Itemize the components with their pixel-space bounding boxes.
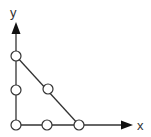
y-axis-label: y bbox=[10, 5, 17, 20]
node-y-mid bbox=[11, 85, 21, 95]
x-axis-label: x bbox=[137, 118, 144, 133]
node-origin bbox=[11, 120, 21, 130]
node-hyp-mid bbox=[43, 84, 53, 94]
node-x-mid bbox=[42, 120, 52, 130]
node-y-top bbox=[11, 51, 21, 61]
y-axis-arrow-icon bbox=[12, 22, 21, 34]
x-axis-arrow-icon bbox=[121, 121, 133, 130]
node-x-end bbox=[74, 120, 84, 130]
triangle-lattice-diagram: y x bbox=[0, 0, 151, 137]
